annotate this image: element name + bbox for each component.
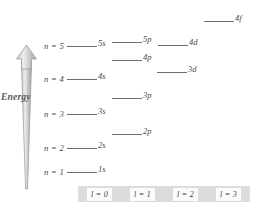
legend-label-l0: l = 0 (87, 188, 112, 201)
level-line-1s (67, 172, 97, 173)
level-label-2p: 2p (143, 127, 152, 136)
legend-label-l2: l = 2 (173, 188, 198, 201)
level-line-4p (112, 60, 142, 61)
level-3d: 3d (157, 67, 197, 78)
level-label-3s: 3s (98, 107, 106, 116)
level-1s: 1s (67, 167, 106, 178)
level-label-5p: 5p (143, 35, 152, 44)
level-line-2p (112, 134, 142, 135)
level-label-3p: 3p (143, 91, 152, 100)
level-line-2s (67, 148, 97, 149)
legend-label-l1: l = 1 (130, 188, 155, 201)
level-line-4d (158, 45, 188, 46)
level-label-2s: 2s (98, 141, 106, 150)
level-line-3d (157, 72, 187, 73)
level-4d: 4d (158, 40, 198, 51)
shell-label-n4: n = 4 (44, 74, 64, 84)
level-2p: 2p (112, 129, 152, 140)
energy-axis-arrow-icon (15, 44, 39, 190)
level-5p: 5p (112, 37, 152, 48)
level-4f: 4f (204, 16, 242, 27)
level-label-3d: 3d (188, 65, 197, 74)
level-label-5s: 5s (98, 39, 106, 48)
shell-label-n5: n = 5 (44, 41, 64, 51)
quantum-number-legend-bar: l = 0 l = 1 l = 2 l = 3 (78, 186, 250, 202)
energy-axis-label: Energy (1, 92, 31, 102)
legend-cell-l2: l = 2 (164, 186, 207, 202)
legend-cell-l1: l = 1 (121, 186, 164, 202)
level-3s: 3s (67, 109, 106, 120)
level-line-5p (112, 42, 142, 43)
level-label-4d: 4d (189, 38, 198, 47)
shell-label-n2: n = 2 (44, 143, 64, 153)
legend-label-l3: l = 3 (216, 188, 241, 201)
level-line-3s (67, 114, 97, 115)
level-4p: 4p (112, 55, 152, 66)
level-line-4f (204, 21, 234, 22)
level-2s: 2s (67, 143, 106, 154)
level-label-4s: 4s (98, 72, 106, 81)
level-label-4f: 4f (235, 14, 242, 23)
level-4s: 4s (67, 74, 106, 85)
legend-cell-l0: l = 0 (78, 186, 121, 202)
level-label-4p: 4p (143, 53, 152, 62)
legend-cell-l3: l = 3 (207, 186, 250, 202)
level-3p: 3p (112, 93, 152, 104)
level-5s: 5s (67, 41, 106, 52)
level-line-3p (112, 98, 142, 99)
shell-label-n3: n = 3 (44, 109, 64, 119)
level-label-1s: 1s (98, 165, 106, 174)
energy-level-diagram: Energy n = 5 n = 4 n = 3 n = 2 n = 1 4f … (0, 0, 253, 213)
level-line-4s (67, 79, 97, 80)
shell-label-n1: n = 1 (44, 167, 64, 177)
level-line-5s (67, 46, 97, 47)
